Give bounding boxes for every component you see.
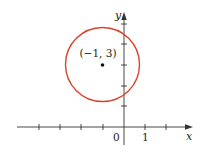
y-axis xyxy=(121,12,127,145)
y-axis-label: y xyxy=(114,9,122,22)
x-axis xyxy=(17,124,193,130)
center-point xyxy=(101,63,105,67)
y-axis-arrow-icon xyxy=(121,12,126,20)
origin-label: 0 xyxy=(113,131,120,143)
x-axis-label: x xyxy=(186,130,193,143)
x-axis-arrow-icon xyxy=(185,124,193,129)
x-tick-label-1: 1 xyxy=(142,131,149,143)
center-label: (−1, 3) xyxy=(79,47,116,59)
coordinate-plane: (−1, 3) y x 0 1 xyxy=(0,0,206,152)
